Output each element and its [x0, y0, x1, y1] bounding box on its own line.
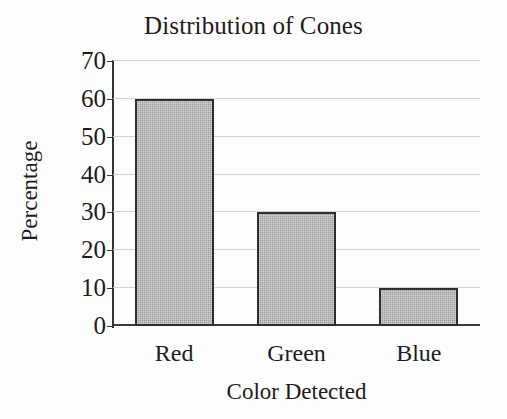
- y-tick-mark: [107, 326, 113, 327]
- y-tick-label: 30: [62, 199, 106, 224]
- y-tick-mark: [107, 99, 113, 100]
- x-tick-label: Blue: [358, 338, 480, 368]
- y-tick-mark: [107, 175, 113, 176]
- y-tick-label: 50: [62, 124, 106, 149]
- x-tick-label: Red: [113, 338, 235, 368]
- y-tick-mark: [107, 250, 113, 251]
- y-tick-label: 40: [62, 162, 106, 187]
- y-tick-label: 10: [62, 275, 106, 300]
- bar-red: [135, 99, 214, 326]
- x-tick-label: Green: [235, 338, 357, 368]
- y-axis-title: Percentage: [17, 101, 43, 281]
- y-tick-mark: [107, 61, 113, 62]
- y-tick-mark: [107, 288, 113, 289]
- plot-area: [113, 61, 480, 326]
- y-tick-mark: [107, 212, 113, 213]
- bar-green: [257, 212, 336, 326]
- bar-blue: [379, 288, 458, 326]
- bar-chart-figure: Distribution of Cones Percentage 0102030…: [0, 0, 507, 419]
- y-axis-tick-labels: 010203040506070: [54, 0, 106, 419]
- y-tick-label: 60: [62, 86, 106, 111]
- y-tick-label: 0: [62, 313, 106, 338]
- gridline: [113, 60, 480, 61]
- x-axis-title: Color Detected: [113, 377, 480, 407]
- y-tick-mark: [107, 137, 113, 138]
- y-tick-label: 70: [62, 48, 106, 73]
- y-tick-label: 20: [62, 237, 106, 262]
